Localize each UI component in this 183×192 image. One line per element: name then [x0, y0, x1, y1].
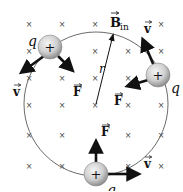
field-into-page-icon: × [158, 101, 165, 110]
velocity-arrow [143, 40, 154, 66]
velocity-label: v [143, 22, 152, 36]
force-label: F [101, 125, 110, 139]
field-label-subscript: in [120, 22, 129, 32]
field-into-page-icon: × [59, 101, 66, 110]
field-into-page-icon: × [59, 20, 66, 29]
field-into-page-icon: × [59, 131, 66, 140]
field-into-page-icon: × [26, 162, 33, 171]
charge-label: q [107, 182, 116, 191]
velocity-label: v [143, 157, 152, 171]
charge-sign: + [45, 40, 56, 55]
charge-bottom: + q F v [84, 124, 152, 192]
field-into-page-icon: × [125, 47, 132, 56]
field-into-page-icon: × [26, 101, 33, 110]
field-into-page-icon: × [92, 74, 99, 83]
field-into-page-icon: × [92, 47, 99, 56]
velocity-label: v [12, 85, 21, 99]
field-into-page-icon: × [92, 20, 99, 29]
force-arrow [58, 56, 72, 70]
force-label: F [73, 85, 82, 99]
field-into-page-icon: × [125, 74, 132, 83]
magnetic-field-diagram: × × × × × × × × × × × × × × × × × × × × … [0, 0, 183, 191]
charge-sign: + [91, 167, 102, 182]
field-into-page-icon: × [26, 20, 33, 29]
charge-sign: + [153, 68, 164, 83]
charge-label: q [28, 33, 37, 49]
field-label: B in [110, 12, 129, 33]
charge-top-left: + q v F [12, 33, 82, 99]
field-into-page-icon: × [158, 162, 165, 171]
field-into-page-icon: × [59, 74, 66, 83]
field-into-page-icon: × [158, 20, 165, 29]
field-into-page-icon: × [92, 101, 99, 110]
field-into-page-icon: × [125, 131, 132, 140]
charge-right: + q v F [114, 21, 180, 109]
charge-label: q [171, 80, 180, 96]
field-into-page-icon: × [125, 101, 132, 110]
field-into-page-icon: × [158, 47, 165, 56]
force-label: F [114, 94, 123, 108]
